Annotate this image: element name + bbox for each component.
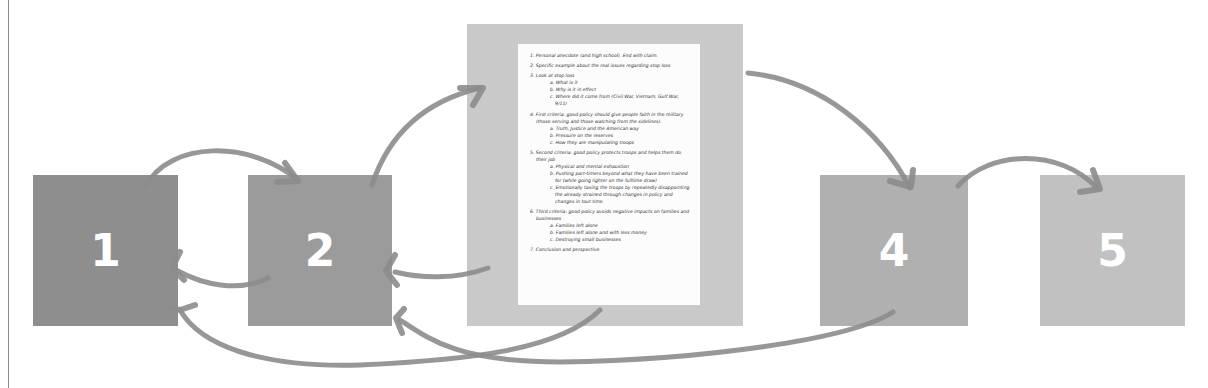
outline-item-text: 3. Look at stop loss <box>530 73 574 78</box>
outline-item: 4. First criteria: good policy should gi… <box>530 111 692 146</box>
outline-subitem: a. Families left alone <box>550 222 692 229</box>
outline-item: 1. Personal anecdote (and high school). … <box>530 52 692 59</box>
outline-sublist: a. Families left alone b. Families left … <box>536 222 692 243</box>
outline-item-text: 2. Specific example about the real issue… <box>530 63 670 68</box>
outline-subitem: c. Where did it come from (Civil War, Vi… <box>550 93 692 107</box>
outline-item-text: 7. Conclusion and perspective <box>530 247 599 252</box>
step-box-1: 1 <box>33 175 178 326</box>
step-number-5: 5 <box>1097 225 1128 276</box>
outline-item-text: 1. Personal anecdote (and high school). … <box>530 53 658 58</box>
outline-subitem: b. Pushing part-timers beyond what they … <box>550 170 692 184</box>
outline-item: 6. Third criteria: good policy avoids ne… <box>530 208 692 243</box>
outline-subitem: b. Why is it in effect <box>550 86 692 93</box>
outline-document: 1. Personal anecdote (and high school). … <box>518 44 700 305</box>
step-box-5: 5 <box>1040 175 1185 326</box>
step-box-4: 4 <box>820 175 968 326</box>
step-box-3-document: 1. Personal anecdote (and high school). … <box>467 24 743 326</box>
outline-item: 7. Conclusion and perspective <box>530 246 692 253</box>
outline-item: 5. Second criteria: good policy protects… <box>530 149 692 205</box>
outline-subitem: c. Emotionally taxing the troops by repe… <box>550 184 692 205</box>
outline-sublist: a. Physical and mental exhaustion b. Pus… <box>536 163 692 205</box>
step-box-2: 2 <box>248 175 392 326</box>
step-number-4: 4 <box>879 225 910 276</box>
arrow-3-to-4-icon <box>748 73 913 188</box>
outline-subitem: b. Pressure on the reserves <box>550 132 692 139</box>
outline-list: 1. Personal anecdote (and high school). … <box>530 52 692 253</box>
step-number-1: 1 <box>90 225 121 276</box>
step-number-2: 2 <box>305 225 336 276</box>
outline-item-text: 5. Second criteria: good policy protects… <box>530 150 681 162</box>
outline-item-text: 6. Third criteria: good policy avoids ne… <box>530 209 689 221</box>
outline-subitem: a. Truth, Justice and the American way <box>550 125 692 132</box>
outline-sublist: a. Truth, Justice and the American way b… <box>536 125 692 146</box>
outline-item: 3. Look at stop loss a. What is it b. Wh… <box>530 72 692 107</box>
outline-subitem: c. How they are manipulating troops <box>550 139 692 146</box>
outline-item: 2. Specific example about the real issue… <box>530 62 692 69</box>
outline-subitem: b. Families left alone and with less mon… <box>550 229 692 236</box>
outline-item-text: 4. First criteria: good policy should gi… <box>530 112 683 124</box>
outline-subitem: a. What is it <box>550 79 692 86</box>
left-border-line <box>8 0 9 388</box>
outline-subitem: a. Physical and mental exhaustion <box>550 163 692 170</box>
outline-sublist: a. What is it b. Why is it in effect c. … <box>536 79 692 107</box>
outline-subitem: c. Destroying small businesses <box>550 236 692 243</box>
